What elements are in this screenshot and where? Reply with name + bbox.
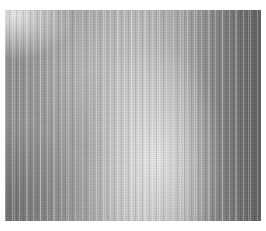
grain	[5, 10, 261, 221]
striped-texture-photo	[5, 10, 261, 221]
image-canvas	[0, 0, 266, 231]
